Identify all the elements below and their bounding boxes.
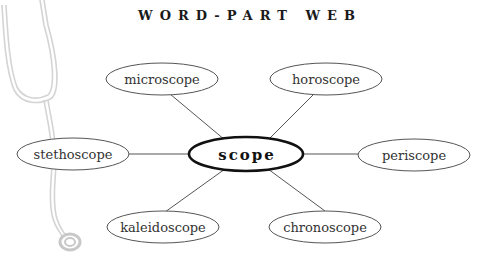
- svg-text:microscope: microscope: [124, 72, 200, 87]
- word-web-diagram: microscope horoscope stethoscope perisco…: [0, 0, 491, 254]
- node-kaleidoscope: kaleidoscope: [107, 211, 219, 243]
- svg-text:periscope: periscope: [382, 148, 446, 163]
- svg-text:scope: scope: [218, 146, 276, 164]
- node-stethoscope: stethoscope: [17, 138, 129, 170]
- svg-text:horoscope: horoscope: [292, 72, 360, 87]
- node-chronoscope: chronoscope: [269, 211, 381, 243]
- node-microscope: microscope: [106, 63, 218, 95]
- node-center-scope: scope: [189, 137, 303, 171]
- svg-text:stethoscope: stethoscope: [34, 147, 113, 162]
- svg-text:kaleidoscope: kaleidoscope: [120, 220, 206, 235]
- node-horoscope: horoscope: [270, 63, 382, 95]
- node-periscope: periscope: [358, 139, 470, 171]
- stethoscope-icon: [2, 0, 80, 250]
- svg-text:chronoscope: chronoscope: [283, 220, 367, 235]
